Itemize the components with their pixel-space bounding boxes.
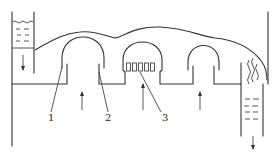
- floor-right-segment: [214, 66, 241, 84]
- outlet-flow-arrow: [251, 136, 255, 150]
- diagram-canvas: 1 2 3: [0, 0, 275, 155]
- upflow-arrows: [80, 83, 202, 110]
- floor-segment-2: [99, 64, 125, 84]
- dome-1: [62, 37, 104, 68]
- heating-elements: [127, 63, 155, 71]
- label-3: 3: [162, 112, 168, 123]
- vapor-lines: [248, 58, 259, 84]
- label-2: 2: [105, 112, 111, 123]
- left-liquid-surface: [13, 21, 33, 23]
- label-1: 1: [48, 112, 54, 123]
- inlet-flow-arrow: [21, 55, 25, 71]
- right-liquid-dashes: [244, 99, 259, 119]
- left-liquid-dashes: [12, 29, 34, 48]
- top-cover-curve: [35, 27, 267, 80]
